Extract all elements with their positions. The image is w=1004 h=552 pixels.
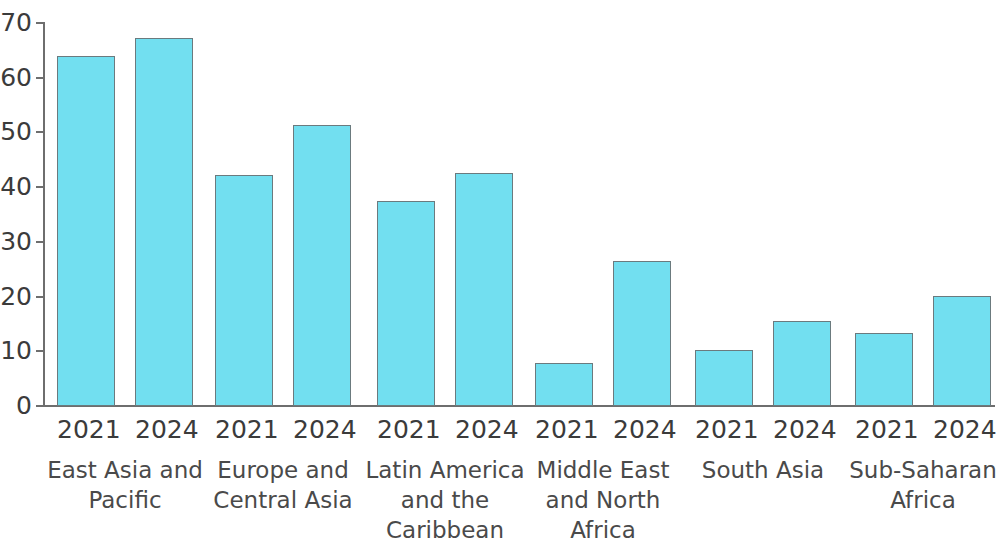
bar xyxy=(933,296,991,406)
y-tick-label: 20 xyxy=(0,284,32,309)
bar xyxy=(215,175,273,406)
x-tick-label-year: 2024 xyxy=(773,415,831,445)
x-axis-group-label: Middle Eastand NorthAfrica xyxy=(518,455,688,545)
bar xyxy=(57,56,115,406)
bar xyxy=(455,173,513,406)
bar xyxy=(855,333,913,406)
group-label-line: Latin America xyxy=(360,455,530,485)
x-tick-label-year: 2024 xyxy=(455,415,513,445)
x-axis-group-label: South Asia xyxy=(678,455,848,485)
group-label-line: Africa xyxy=(838,485,1004,515)
bar-chart: 010203040506070 202120242021202420212024… xyxy=(0,0,1004,552)
group-label-line: Africa xyxy=(518,515,688,545)
group-label-line: Middle East xyxy=(518,455,688,485)
bar xyxy=(773,321,831,406)
group-label-line: Europe and xyxy=(198,455,368,485)
bar xyxy=(535,363,593,406)
x-tick-label-year: 2021 xyxy=(535,415,593,445)
bar xyxy=(135,38,193,406)
group-label-line: Caribbean xyxy=(360,515,530,545)
group-label-line: Central Asia xyxy=(198,485,368,515)
bar xyxy=(377,201,435,406)
x-tick-label-year: 2021 xyxy=(215,415,273,445)
group-label-line: and North xyxy=(518,485,688,515)
x-tick-label-year: 2021 xyxy=(695,415,753,445)
x-axis-group-label: East Asia andPacific xyxy=(40,455,210,515)
x-axis-group-label: Sub-SaharanAfrica xyxy=(838,455,1004,515)
y-tick-label: 10 xyxy=(0,338,32,363)
x-tick-label-year: 2024 xyxy=(135,415,193,445)
y-tick-label: 0 xyxy=(0,393,32,418)
group-label-line: Sub-Saharan xyxy=(838,455,1004,485)
y-tick-label: 70 xyxy=(0,10,32,35)
bar xyxy=(613,261,671,406)
x-tick-label-year: 2024 xyxy=(613,415,671,445)
y-tick-label: 40 xyxy=(0,174,32,199)
bars-container xyxy=(44,23,995,406)
x-axis-group-label: Europe andCentral Asia xyxy=(198,455,368,515)
x-tick-label-year: 2024 xyxy=(933,415,991,445)
y-tick-label: 30 xyxy=(0,229,32,254)
y-tick-label: 50 xyxy=(0,119,32,144)
bar xyxy=(695,350,753,406)
group-label-line: Pacific xyxy=(40,485,210,515)
x-tick-label-year: 2024 xyxy=(293,415,351,445)
x-tick-label-year: 2021 xyxy=(855,415,913,445)
y-tick-label: 60 xyxy=(0,65,32,90)
bar xyxy=(293,125,351,406)
group-label-line: East Asia and xyxy=(40,455,210,485)
group-label-line: South Asia xyxy=(678,455,848,485)
group-label-line: and the xyxy=(360,485,530,515)
x-axis-group-label: Latin Americaand theCaribbean xyxy=(360,455,530,545)
x-tick-label-year: 2021 xyxy=(377,415,435,445)
x-tick-label-year: 2021 xyxy=(57,415,115,445)
